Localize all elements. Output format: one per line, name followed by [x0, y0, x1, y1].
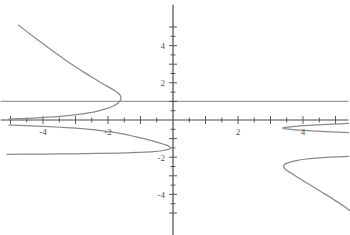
x-tick-label: 2: [236, 127, 241, 137]
x-tick-label: 4: [301, 127, 306, 137]
y-tick-label: 4: [161, 41, 166, 51]
plot-canvas: -4-22442-2-4: [0, 0, 350, 235]
x-tick-label: -4: [39, 127, 47, 137]
y-tick-label: -4: [158, 190, 166, 200]
y-tick-label: -2: [158, 153, 166, 163]
y-tick-label: 2: [161, 78, 166, 88]
x-tick-label: -2: [104, 127, 112, 137]
plot-container: -4-22442-2-4: [0, 0, 350, 235]
